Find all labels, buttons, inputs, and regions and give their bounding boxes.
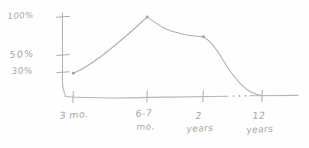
y-axis-tick-100	[57, 16, 70, 17]
axis-break-dot-2	[239, 95, 241, 97]
axis-break-dot-3	[245, 95, 247, 97]
x-axis-label-2years-line1: 2	[195, 110, 202, 121]
y-axis-label-100: 100%	[7, 10, 34, 21]
x-axis-label-12years-line1: 12	[252, 110, 266, 121]
y-axis-line	[62, 13, 65, 96]
data-point-6-7mo	[146, 16, 149, 19]
x-axis-label-12years-line2: years	[246, 124, 274, 135]
y-axis-tick-50	[57, 55, 69, 56]
data-curve	[73, 17, 262, 96]
data-point-2years	[202, 35, 205, 38]
y-axis-label-30: 30%	[11, 65, 33, 76]
x-axis-label-6-7mo-line2: mo.	[136, 121, 155, 132]
x-axis-tick-2years	[203, 91, 204, 102]
hand-drawn-line-chart: 100% 50% 30% 3 mo. 6-7 mo. 2 years 12 ye…	[0, 0, 309, 148]
x-axis-label-6-7mo-line1: 6-7	[135, 107, 153, 119]
axis-break-dot-1	[233, 95, 235, 97]
y-axis-tick-30	[57, 72, 69, 73]
x-axis-label-2years-line2: years	[186, 123, 214, 134]
origin-corner-overdraw	[64, 88, 67, 97]
x-axis-tick-3mo	[73, 92, 74, 103]
x-axis-tick-6-7mo	[147, 91, 148, 102]
x-axis-label-3mo: 3 mo.	[59, 108, 89, 121]
y-axis-label-50: 50%	[9, 48, 35, 60]
data-point-3mo	[72, 72, 75, 75]
